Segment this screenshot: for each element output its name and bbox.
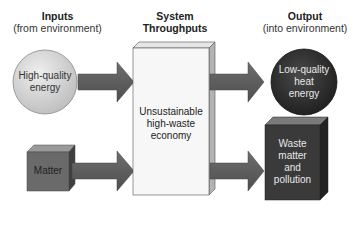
matter-label: Matter <box>27 165 69 177</box>
economy-line3: economy <box>133 130 209 142</box>
high-quality-energy-line2: energy <box>13 82 77 94</box>
high-quality-energy-label: High-quality energy <box>13 70 77 94</box>
economy-line2: high-waste <box>133 118 209 130</box>
waste-line3: and <box>265 162 320 174</box>
arrow-economy-to-waste <box>210 151 264 191</box>
low-quality-heat-line3: energy <box>271 88 337 100</box>
waste-label: Waste matter and pollution <box>265 138 320 186</box>
waste-line2: matter <box>265 150 320 162</box>
matter-text: Matter <box>27 165 69 177</box>
waste-line1: Waste <box>265 138 320 150</box>
economy-label: Unsustainable high-waste economy <box>133 106 209 142</box>
waste-line4: pollution <box>265 174 320 186</box>
high-quality-energy-line1: High-quality <box>13 70 77 82</box>
low-quality-heat-line2: heat <box>271 76 337 88</box>
arrow-economy-to-heat <box>210 62 264 102</box>
economy-line1: Unsustainable <box>133 106 209 118</box>
arrow-matter-to-economy <box>72 151 134 191</box>
arrow-energy-to-economy <box>78 62 134 102</box>
low-quality-heat-line1: Low-quality <box>271 64 337 76</box>
low-quality-heat-label: Low-quality heat energy <box>271 64 337 100</box>
